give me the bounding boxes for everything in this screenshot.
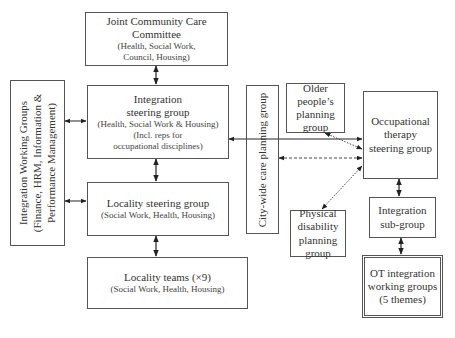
node-joint-community-care-committee: Joint Community Care Committee (Health, … (85, 12, 228, 66)
node-title: working groups (368, 280, 437, 293)
node-locality-teams: Locality teams (×9) (Social Work, Health… (87, 257, 248, 309)
node-title: disability (298, 220, 339, 233)
node-ot-integration-working-groups: OT integration working groups (5 themes) (362, 255, 443, 318)
node-title: Integration Working Groups (17, 101, 31, 225)
node-ot-steering-group: Occupational therapy steering group (363, 91, 438, 179)
node-subtitle: Council, Housing) (123, 52, 190, 63)
node-title: City-wide care planning group (256, 92, 270, 227)
edge-ot-olderpeople (325, 133, 362, 149)
node-subtitle: occupational disciplines) (113, 141, 203, 152)
node-title: therapy (384, 128, 417, 141)
node-title: Physical (299, 207, 336, 220)
node-subtitle: (Incl. reps for (133, 130, 182, 141)
node-title: steering group (369, 142, 432, 155)
node-title: group (305, 247, 331, 260)
node-title: Older people’s (287, 82, 344, 108)
node-title: planning (296, 108, 335, 121)
node-title: planning (299, 234, 338, 247)
node-subtitle: (Finance, HRM, Information & (31, 94, 45, 232)
node-title: Integration (134, 93, 182, 106)
node-physical-disability-planning-group: Physical disability planning group (290, 210, 346, 257)
node-locality-steering-group: Locality steering group (Social Work, He… (87, 182, 229, 236)
node-integration-sub-group: Integration sub-group (369, 197, 436, 238)
node-title: OT integration (370, 267, 435, 280)
node-title: Committee (132, 28, 181, 41)
node-subtitle: Performance Management) (44, 103, 58, 223)
node-older-peoples-planning-group: Older people’s planning group (286, 83, 345, 133)
node-subtitle: (Social Work, Health, Housing) (101, 210, 215, 221)
node-title: (5 themes) (379, 293, 426, 306)
node-title: steering group (126, 106, 189, 119)
node-subtitle: (Social Work, Health, Housing) (111, 284, 225, 295)
edge-ot-physicaldisability (322, 166, 362, 209)
node-integration-working-groups: Integration Working Groups (Finance, HRM… (10, 80, 65, 246)
node-title: Locality teams (×9) (124, 271, 211, 284)
node-integration-steering-group: Integration steering group (Health, Soci… (87, 85, 229, 159)
node-title: Occupational (371, 115, 430, 128)
node-title: Integration (378, 204, 426, 217)
node-city-wide-care-planning-group: City-wide care planning group (246, 85, 279, 234)
node-subtitle: (Health, Social Work & Housing) (98, 119, 219, 130)
node-subtitle: (Health, Social Work, (117, 41, 195, 52)
node-title: group (303, 121, 329, 134)
node-title: sub-group (380, 218, 425, 231)
node-title: Joint Community Care (106, 15, 206, 28)
node-title: Locality steering group (107, 197, 210, 210)
